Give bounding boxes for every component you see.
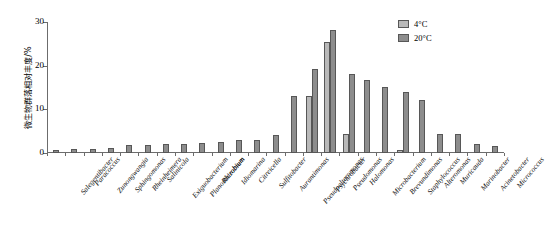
y-tick-label: 10 [35,103,44,113]
bar-20c [403,92,409,153]
bar-20c [126,145,132,153]
bar-20c [199,143,205,153]
legend-label-20c: 20°C [414,33,432,43]
legend-swatch-4c [398,20,409,28]
bar-20c [145,145,151,153]
y-tick-label: 20 [35,60,44,70]
legend: 4°C 20°C [398,18,498,46]
bar-20c [364,80,370,153]
bar-20c [492,146,498,153]
bar-20c [349,74,355,153]
x-axis-labels: SalegentibacterParacoccusZunongwangiaSph… [47,155,504,240]
bar-20c [90,149,96,153]
bar-20c [455,134,461,153]
y-tick-label: 30 [35,16,44,26]
bar-20c [382,87,388,153]
y-tick-label: 0 [40,147,45,157]
bar-20c [254,140,260,153]
bar-20c [218,142,224,153]
bar-20c [108,148,114,153]
bar-20c [437,134,443,153]
legend-swatch-20c [398,34,409,42]
legend-item-4c: 4°C [398,18,498,30]
bar-20c [53,150,59,153]
legend-item-20c: 20°C [398,32,498,44]
y-axis-label: 微生物群落相对丰度/% [22,13,33,163]
bar-20c [71,149,77,153]
bar-20c [419,100,425,153]
bar-20c [312,69,318,153]
bar-20c [291,96,297,153]
bar-20c [330,30,336,153]
bar-20c [181,144,187,153]
bar-20c [273,135,279,153]
bar-20c [474,144,480,153]
legend-label-4c: 4°C [414,19,427,29]
bar-20c [236,140,242,153]
bar-20c [163,144,169,153]
